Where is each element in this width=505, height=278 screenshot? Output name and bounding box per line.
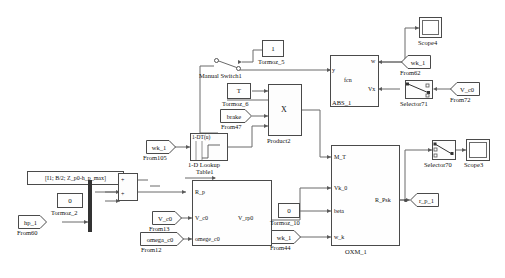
block-mux[interactable] xyxy=(88,180,92,232)
from12-label: From12 xyxy=(141,247,162,254)
tormoz-6-value: T xyxy=(237,87,241,95)
from12-tag: omega_c0 xyxy=(140,236,184,243)
from44-tag: wk_1 xyxy=(271,234,301,241)
arrowhead xyxy=(238,60,242,64)
block-tormoz-6[interactable]: T xyxy=(227,83,251,99)
from72-label: From72 xyxy=(450,97,471,104)
selector70-label: Selector70 xyxy=(424,162,452,169)
tormoz-2-label: Tormoz_2 xyxy=(51,210,78,217)
block-const-vector[interactable]: [I1; B/2; Z_p0-h_p_max] xyxy=(27,171,124,185)
from60-label: From60 xyxy=(17,230,38,237)
rp-port-omege-c0: omege_c0 xyxy=(195,236,220,242)
tormoz-5-label: Tormoz_5 xyxy=(258,59,285,66)
block-from13[interactable]: V_c0 xyxy=(152,211,182,225)
from72-tag: V_c0 xyxy=(450,86,480,93)
from13-tag: V_c0 xyxy=(152,215,182,222)
oxm-1-label: OXM_1 xyxy=(345,249,367,256)
abs-1-port-vx: Vx xyxy=(368,86,375,92)
tormoz-10-label: Tormoz_10 xyxy=(270,220,300,227)
scope4-screen xyxy=(422,20,439,35)
rp-port-r-p: R_p xyxy=(195,189,205,195)
block-from105[interactable]: wk_1 xyxy=(146,140,176,154)
block-from44[interactable]: wk_1 xyxy=(271,230,301,244)
product2-label: Product2 xyxy=(267,138,290,145)
goto-rp1-tag: r_p_1 xyxy=(410,197,439,204)
scope3-label: Scope3 xyxy=(464,162,483,169)
block-from60[interactable]: hp_1 xyxy=(18,215,47,229)
from105-tag: wk_1 xyxy=(146,144,176,151)
product2-operator: X xyxy=(281,105,287,114)
block-scope4[interactable] xyxy=(419,17,442,38)
from62-label: From62 xyxy=(400,70,421,77)
abs-1-fcn-label: fcn xyxy=(344,77,352,83)
block-from47[interactable]: brake xyxy=(220,109,252,123)
block-tormoz-5[interactable]: 1 xyxy=(262,40,284,57)
switch-input-port xyxy=(214,58,219,63)
abs-1-port-w: w xyxy=(371,58,375,64)
block-from12[interactable]: omega_c0 xyxy=(140,232,184,246)
from44-label: From44 xyxy=(270,245,291,252)
tormoz-10-value: 0 xyxy=(287,207,291,215)
lookup-curve-glyph xyxy=(190,140,228,161)
block-tormoz-10[interactable]: 0 xyxy=(278,203,300,218)
from47-label: From47 xyxy=(221,124,242,131)
abs-1-label: ABS_1 xyxy=(332,100,351,107)
block-tormoz-2[interactable]: 0 xyxy=(57,193,83,208)
from47-tag: brake xyxy=(220,113,252,120)
from62-tag: wk_1 xyxy=(401,59,431,66)
from105-label: From105 xyxy=(143,155,167,162)
arrowhead xyxy=(182,190,186,194)
const-vector-value: [I1; B/2; Z_p0-h_p_max] xyxy=(45,175,106,181)
selector70-glyph xyxy=(432,140,456,160)
oxm-1-port-r-psk: R_Psk xyxy=(375,197,391,203)
junction-dot xyxy=(404,199,407,202)
tormoz-6-label: Tormoz_6 xyxy=(222,101,249,108)
rp-port-v-c0: V_c0 xyxy=(195,215,208,221)
block-goto-rp1[interactable]: r_p_1 xyxy=(410,193,439,207)
oxm-1-port-beta: beta xyxy=(334,208,344,214)
oxm-1-port-m-t: M_T xyxy=(334,154,346,160)
rp-port-v-rp0: V_rp0 xyxy=(238,215,253,221)
arrowhead xyxy=(212,176,216,180)
scope4-label: Scope4 xyxy=(418,40,437,47)
block-from62[interactable]: wk_1 xyxy=(401,55,431,69)
lookup-table1-label2: Table1 xyxy=(196,169,214,176)
oxm-1-port-vk-0: Vk_0 xyxy=(334,185,347,191)
oxm-1-port-w-k: w_k xyxy=(334,234,344,240)
sum-plus-1: + xyxy=(121,177,124,183)
switch-input-port xyxy=(236,66,241,71)
tormoz-2-value: 0 xyxy=(68,197,72,205)
selector71-glyph xyxy=(405,80,433,99)
simulink-canvas[interactable]: 1 Tormoz_5 Manual Switch1 T Tormoz_6 bra… xyxy=(0,0,505,278)
block-from72[interactable]: V_c0 xyxy=(450,82,480,96)
manual-switch-label: Manual Switch1 xyxy=(199,73,242,80)
scope3-screen xyxy=(469,142,487,158)
arrowhead xyxy=(433,87,437,91)
tormoz-5-value: 1 xyxy=(271,45,275,53)
selector71-label: Selector71 xyxy=(400,101,428,108)
abs-1-port-y: y xyxy=(332,67,335,73)
from60-tag: hp_1 xyxy=(18,219,47,226)
block-scope3[interactable] xyxy=(466,139,490,161)
block-oxm-1[interactable] xyxy=(331,145,400,246)
sum-plus-2: + xyxy=(121,191,124,197)
